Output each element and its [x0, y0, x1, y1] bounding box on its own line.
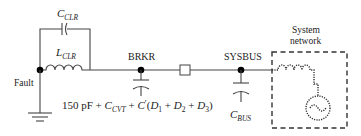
sysbus-label: SYSBUS [224, 51, 262, 62]
c-bus-label: CBUS [230, 108, 251, 123]
breaker-box[interactable] [180, 65, 190, 75]
system-network-inductor-icon [272, 65, 318, 96]
system-network-box[interactable] [272, 52, 347, 128]
brkr-capacitance-formula: 150 pF + CCVT + C′(D1 + D2 + D3) [62, 98, 213, 114]
system-network-label-2: network [290, 36, 321, 46]
c-clr-label: CCLR [57, 7, 79, 22]
system-network-label-1: System [292, 25, 321, 35]
c-clr-capacitor [40, 23, 90, 70]
circuit-diagram: CCLR LCLR Fault BRKR SYSBUS [0, 0, 361, 136]
ac-source-icon [306, 96, 330, 120]
l-clr-inductor-icon [42, 65, 90, 70]
l-clr-label: LCLR [55, 46, 76, 61]
sysbus-capacitor-icon [233, 70, 249, 102]
brkr-capacitor-icon [133, 70, 149, 96]
brkr-label: BRKR [128, 51, 156, 62]
fault-label: Fault [14, 78, 34, 88]
